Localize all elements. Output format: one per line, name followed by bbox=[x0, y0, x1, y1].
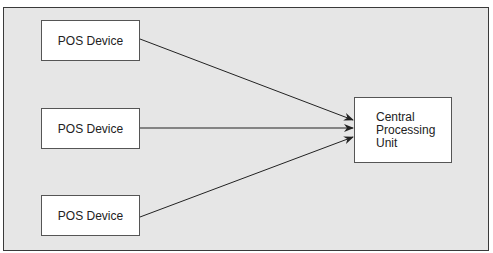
pos-device-node-1: POS Device bbox=[41, 20, 140, 61]
central-processing-unit-node: Central Processing Unit bbox=[354, 97, 452, 163]
pos-device-node-3: POS Device bbox=[41, 195, 140, 236]
central-processing-unit-label: Central Processing Unit bbox=[376, 111, 435, 150]
pos-device-label-2: POS Device bbox=[58, 122, 123, 136]
pos-device-node-2: POS Device bbox=[41, 108, 140, 149]
pos-device-label-3: POS Device bbox=[58, 209, 123, 223]
pos-device-label-1: POS Device bbox=[58, 34, 123, 48]
